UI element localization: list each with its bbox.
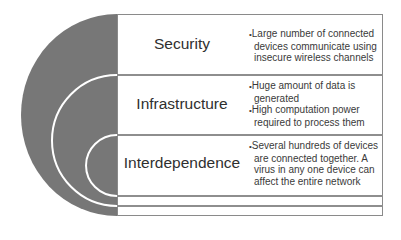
bullet-interdependence-1: Several hundreds of devices are connecte… <box>249 140 381 187</box>
label-infrastructure: Infrastructure <box>117 95 247 113</box>
divider-security-infrastructure <box>117 74 383 76</box>
desc-security: Large number of connected devices commun… <box>249 28 381 64</box>
desc-interdependence: Several hundreds of devices are connecte… <box>249 140 381 187</box>
bullet-security-1: Large number of connected devices commun… <box>249 28 381 64</box>
label-interdependence: Interdependence <box>117 154 247 172</box>
label-security: Security <box>117 35 247 53</box>
divider-bottom-2 <box>117 205 383 207</box>
desc-infrastructure: Huge amount of data is generated High co… <box>249 80 381 128</box>
divider-bottom-1 <box>117 195 383 197</box>
divider-infrastructure-interdependence <box>117 134 383 136</box>
bullet-infrastructure-1: Huge amount of data is generated <box>249 80 381 104</box>
bullet-infrastructure-2: High computation power required to proce… <box>249 104 381 128</box>
